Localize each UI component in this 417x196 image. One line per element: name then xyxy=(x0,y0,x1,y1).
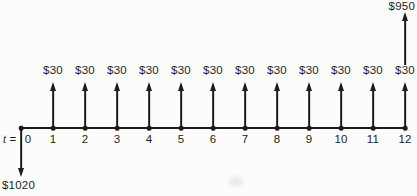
inflow-arrowhead-icon xyxy=(338,82,344,91)
inflow-label: $30 xyxy=(235,64,255,76)
inflow-arrowhead-icon xyxy=(242,82,248,91)
tick-label: 6 xyxy=(210,133,217,145)
inflow-arrow-stem xyxy=(84,90,86,128)
inflow-arrow-stem xyxy=(340,90,342,128)
tick-label: 4 xyxy=(146,133,153,145)
inflow-label: $30 xyxy=(395,64,415,76)
inflow-arrowhead-icon xyxy=(50,82,56,91)
final-inflow-arrowhead-icon xyxy=(402,12,408,21)
inflow-label: $30 xyxy=(107,64,127,76)
scan-artifact xyxy=(229,176,243,187)
inflow-arrowhead-icon xyxy=(370,82,376,91)
inflow-label: $30 xyxy=(363,64,383,76)
tick-label: 2 xyxy=(82,133,89,145)
tick-label: 0 xyxy=(25,133,32,145)
inflow-arrowhead-icon xyxy=(274,82,280,91)
tick-label: 5 xyxy=(178,133,185,145)
inflow-arrow-stem xyxy=(372,90,374,128)
time-prefix-label: t= xyxy=(3,133,16,145)
inflow-arrowhead-icon xyxy=(210,82,216,91)
tick-label: 8 xyxy=(274,133,281,145)
inflow-arrowhead-icon xyxy=(306,82,312,91)
inflow-arrowhead-icon xyxy=(402,82,408,91)
inflow-label: $30 xyxy=(267,64,287,76)
inflow-arrow-stem xyxy=(308,90,310,128)
tick-label: 11 xyxy=(367,133,379,145)
inflow-arrow-stem xyxy=(180,90,182,128)
final-inflow-label: $950 xyxy=(389,0,415,12)
final-inflow-arrow-stem xyxy=(404,21,406,65)
inflow-arrowhead-icon xyxy=(146,82,152,91)
outflow-arrowhead-icon xyxy=(18,168,24,177)
tick-label: 10 xyxy=(334,133,347,145)
t-symbol: t xyxy=(3,133,6,145)
inflow-arrow-stem xyxy=(212,90,214,128)
tick-label: 3 xyxy=(114,133,121,145)
tick-label: 7 xyxy=(242,133,249,145)
tick-label: 1 xyxy=(50,133,57,145)
inflow-arrow-stem xyxy=(404,90,406,128)
inflow-arrow-stem xyxy=(116,90,118,128)
inflow-arrow-stem xyxy=(52,90,54,128)
inflow-label: $30 xyxy=(299,64,319,76)
outflow-label: $1020 xyxy=(2,179,35,191)
inflow-label: $30 xyxy=(331,64,351,76)
inflow-arrow-stem xyxy=(244,90,246,128)
inflow-label: $30 xyxy=(171,64,191,76)
outflow-arrow-stem xyxy=(20,128,22,168)
inflow-label: $30 xyxy=(75,64,95,76)
inflow-arrowhead-icon xyxy=(178,82,184,91)
inflow-arrow-stem xyxy=(276,90,278,128)
inflow-arrowhead-icon xyxy=(114,82,120,91)
inflow-label: $30 xyxy=(139,64,159,76)
tick-label: 9 xyxy=(306,133,313,145)
inflow-arrow-stem xyxy=(148,90,150,128)
tick-label: 12 xyxy=(398,133,411,145)
inflow-arrowhead-icon xyxy=(82,82,88,91)
inflow-label: $30 xyxy=(43,64,63,76)
equals-sign: = xyxy=(9,133,16,145)
cash-flow-diagram: t= 0123456789101112 $30$30$30$30$30$30$3… xyxy=(0,0,417,196)
inflow-label: $30 xyxy=(203,64,223,76)
